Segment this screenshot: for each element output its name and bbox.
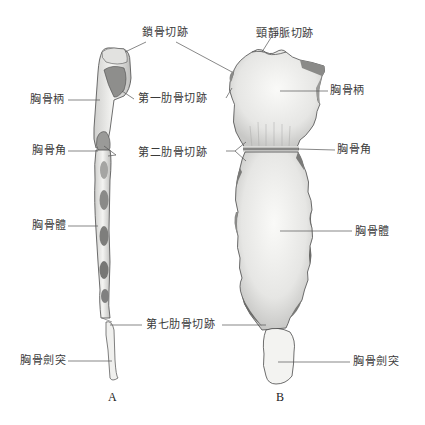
label-manubrium-right: 胸骨柄 xyxy=(330,85,365,97)
label-sternal-angle-left: 胸骨角 xyxy=(32,145,67,157)
label-xiphoid-right: 胸骨劍突 xyxy=(353,356,399,368)
label-body-left: 胸骨體 xyxy=(32,220,67,232)
label-manubrium-left: 胸骨柄 xyxy=(30,94,65,106)
panel-letter-a: A xyxy=(108,390,117,405)
label-xiphoid-left: 胸骨劍突 xyxy=(20,355,66,367)
label-jugular-notch: 頸靜脈切跡 xyxy=(256,28,314,40)
label-clavicular-notch: 鎖骨切跡 xyxy=(142,27,188,39)
panel-letter-b: B xyxy=(276,390,284,405)
label-seventh-costal-notch: 第七肋骨切跡 xyxy=(146,319,215,331)
label-body-right: 胸骨體 xyxy=(355,226,390,238)
sternum-lateral-view xyxy=(94,48,131,380)
sternum-anterior-view xyxy=(229,49,324,384)
label-second-costal-notch: 第二肋骨切跡 xyxy=(138,147,207,159)
label-first-costal-notch: 第一肋骨切跡 xyxy=(138,93,207,105)
label-sternal-angle-right: 胸骨角 xyxy=(337,144,372,156)
